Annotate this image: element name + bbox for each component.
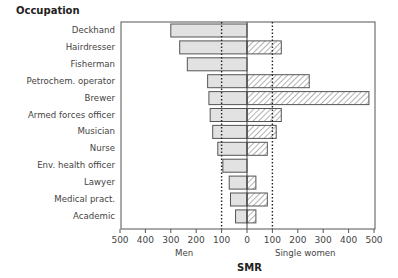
women-bar: [247, 142, 267, 155]
men-bar: [171, 24, 247, 37]
tick-label: 500: [111, 235, 128, 245]
men-bar: [213, 125, 247, 138]
men-bar: [187, 58, 247, 71]
men-bar: [208, 75, 247, 88]
tick-label: 200: [188, 235, 205, 245]
women-bar: [247, 41, 281, 54]
tick-label: 200: [289, 235, 306, 245]
tick-label: 300: [162, 235, 179, 245]
women-bar: [247, 176, 256, 189]
tick-label: 500: [365, 235, 382, 245]
tick-label: 400: [137, 235, 154, 245]
women-axis-label: Single women: [275, 248, 336, 258]
men-bar: [209, 92, 247, 105]
women-bar: [247, 92, 369, 105]
women-bar: [247, 75, 309, 88]
men-bar: [230, 193, 247, 206]
tick-label: 100: [264, 235, 281, 245]
men-bar: [180, 41, 247, 54]
x-axis-title: SMR: [237, 262, 262, 273]
men-axis-label: Men: [175, 248, 193, 258]
women-bar: [247, 210, 256, 223]
men-bar: [223, 159, 247, 172]
men-bar: [229, 176, 247, 189]
men-bar: [236, 210, 247, 223]
women-bar: [247, 109, 281, 122]
tick-label: 0: [244, 235, 250, 245]
women-bar: [247, 193, 267, 206]
men-bar: [210, 109, 247, 122]
tick-label: 400: [340, 235, 357, 245]
tick-label: 300: [315, 235, 332, 245]
tick-label: 100: [213, 235, 230, 245]
